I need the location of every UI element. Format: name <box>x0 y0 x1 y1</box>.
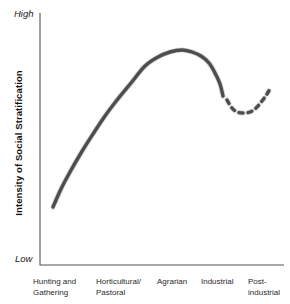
x-label-industrial: Industrial <box>201 276 233 287</box>
dashed-projection-curve <box>227 87 271 113</box>
stratification-chart: High Intensity of Social Stratification … <box>0 0 290 304</box>
x-label-horticultural-pastoral: Horticultural/ Pastoral <box>96 276 141 298</box>
y-axis-high-label: High <box>14 9 34 19</box>
chart-canvas <box>0 0 290 304</box>
x-label-post-industrial: Post- industrial <box>248 276 280 298</box>
solid-curve <box>53 50 223 207</box>
x-label-agrarian: Agrarian <box>157 276 187 287</box>
axis-lines <box>40 13 284 265</box>
y-axis-low-label: Low <box>15 254 32 264</box>
x-label-hunting-gathering: Hunting and Gathering <box>33 276 76 298</box>
y-axis-title: Intensity of Social Stratification <box>13 70 24 215</box>
